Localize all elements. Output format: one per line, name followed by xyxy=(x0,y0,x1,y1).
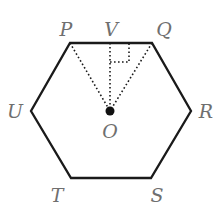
label-S: S xyxy=(150,184,163,206)
label-U: U xyxy=(7,100,24,122)
label-Q: Q xyxy=(156,18,172,40)
label-V: V xyxy=(104,18,120,40)
right-angle-marker xyxy=(110,43,129,62)
label-R: R xyxy=(198,100,213,122)
segment-PO xyxy=(70,43,110,111)
label-T: T xyxy=(51,184,65,206)
hexagon-diagram: P V Q U R O T S xyxy=(0,0,223,211)
label-P: P xyxy=(59,18,74,40)
label-O: O xyxy=(102,120,118,142)
segment-QO xyxy=(110,43,152,111)
center-point-O xyxy=(106,107,115,116)
